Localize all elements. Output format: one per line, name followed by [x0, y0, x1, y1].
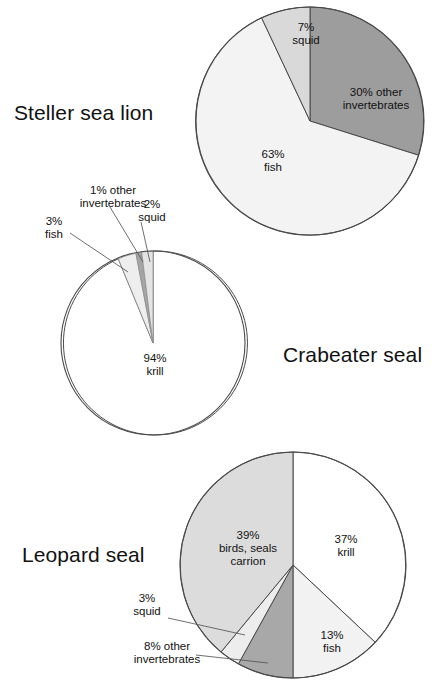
chart-title-leopard-seal: Leopard seal: [22, 543, 145, 567]
label-crabeater-fish: 3% fish: [30, 215, 78, 241]
label-steller-squid: 7% squid: [276, 21, 336, 47]
chart-title-crabeater-seal: Crabeater seal: [283, 343, 422, 367]
chart-title-steller-sea-lion: Steller sea lion: [14, 101, 153, 125]
leader-crabeater-fish: [70, 233, 128, 272]
label-crabeater-krill: 94% krill: [124, 352, 186, 378]
label-steller-other-invertebrates: 30% other invertebrates: [320, 86, 432, 112]
label-leopard-krill: 37% krill: [316, 533, 376, 559]
label-steller-fish: 63% fish: [243, 148, 303, 174]
label-leopard-squid: 3% squid: [118, 592, 176, 618]
figure-canvas: Steller sea lion Crabeater seal Leopard …: [0, 0, 436, 696]
slice-crabeater-krill[interactable]: [63, 251, 247, 435]
label-leopard-other-invertebrates: 8% other invertebrates: [108, 640, 226, 666]
label-leopard-birds-seals-carrion: 39% birds, seals carrion: [194, 529, 302, 569]
pie-crabeater: [61, 207, 247, 435]
label-crabeater-squid: 2% squid: [128, 198, 176, 224]
label-leopard-fish: 13% fish: [303, 629, 361, 655]
